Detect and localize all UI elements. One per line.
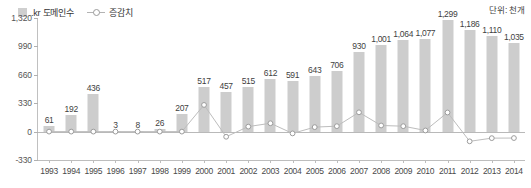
bar-value-label: 207 [175, 103, 188, 113]
x-axis-tick [359, 160, 360, 163]
x-axis-label: 2002 [239, 166, 257, 176]
bar-column: 1,110 [481, 18, 503, 160]
bar-column: 1,064 [392, 18, 414, 160]
x-axis-label: 1994 [62, 166, 80, 176]
x-axis-label: 1999 [173, 166, 191, 176]
bar [176, 114, 187, 132]
bar-value-label: 517 [197, 76, 210, 86]
bar [464, 30, 475, 132]
bar-value-label: 457 [219, 81, 232, 91]
x-axis-line [38, 160, 525, 161]
bar-value-label: 192 [65, 104, 78, 114]
x-axis-label: 1998 [151, 166, 169, 176]
x-axis-label: 2013 [483, 166, 501, 176]
x-axis-tick [138, 160, 139, 163]
domain-count-chart: 단위: 천개 .kr 도메인수 증감치 -33003306609901,320 … [0, 0, 531, 188]
bar-value-label: 61 [45, 115, 54, 125]
x-axis-tick [315, 160, 316, 163]
x-axis-label: 2010 [417, 166, 435, 176]
x-axis-label: 2003 [262, 166, 280, 176]
bar-column: 706 [326, 18, 348, 160]
bar [486, 36, 497, 132]
bar [199, 87, 210, 131]
bar-value-label: 612 [264, 68, 277, 78]
bar [66, 115, 77, 132]
bar-column: 26 [149, 18, 171, 160]
bar-column: 436 [82, 18, 104, 160]
unit-note: 단위: 천개 [489, 3, 525, 15]
bar-column: 3 [104, 18, 126, 160]
bar-value-label: 706 [330, 60, 343, 70]
bar-column: 591 [282, 18, 304, 160]
plot-area: -33003306609901,320 61192436382620751745… [38, 18, 525, 160]
bar [442, 20, 453, 132]
x-axis-tick [337, 160, 338, 163]
y-axis-label: 330 [18, 98, 32, 108]
bar-column: 643 [304, 18, 326, 160]
bar-column: 930 [348, 18, 370, 160]
x-axis-label: 2014 [505, 166, 523, 176]
bar-value-label: 1,299 [438, 9, 458, 19]
x-axis-tick [93, 160, 94, 163]
bar-column: 8 [127, 18, 149, 160]
x-axis-label: 1996 [107, 166, 125, 176]
bar-column: 1,077 [414, 18, 436, 160]
x-axis-tick [403, 160, 404, 163]
x-axis-label: 2001 [217, 166, 235, 176]
bar-value-label: 26 [155, 118, 164, 128]
bar [420, 39, 431, 132]
bar-value-label: 436 [87, 83, 100, 93]
bar-column: 61 [38, 18, 60, 160]
bar-value-label: 3 [113, 120, 117, 130]
x-axis-tick [248, 160, 249, 163]
bar-value-label: 515 [242, 76, 255, 86]
bar [287, 81, 298, 132]
bar-value-label: 930 [352, 41, 365, 51]
x-axis-tick [381, 160, 382, 163]
x-axis-tick [293, 160, 294, 163]
x-axis-label: 2009 [394, 166, 412, 176]
bar-column: 517 [193, 18, 215, 160]
bar-column: 1,035 [503, 18, 525, 160]
y-axis-label: 1,320 [11, 13, 32, 23]
x-axis-tick [514, 160, 515, 163]
x-axis: 1993199419951996199719981999200020012002… [38, 160, 525, 186]
bar [508, 43, 519, 132]
x-axis-label: 2007 [350, 166, 368, 176]
bar [88, 94, 99, 132]
x-axis-tick [204, 160, 205, 163]
bar [331, 71, 342, 132]
x-axis-label: 2011 [439, 166, 456, 176]
x-axis-label: 2006 [328, 166, 346, 176]
x-axis-tick [160, 160, 161, 163]
bar-column: 1,299 [436, 18, 458, 160]
x-axis-label: 2008 [372, 166, 390, 176]
x-axis-tick [226, 160, 227, 163]
bar-column: 515 [237, 18, 259, 160]
x-axis-tick [470, 160, 471, 163]
bar [221, 92, 232, 131]
bar-column: 207 [171, 18, 193, 160]
bar-value-label: 591 [286, 70, 299, 80]
bar-value-label: 1,064 [393, 29, 413, 39]
bar-value-label: 8 [135, 120, 139, 130]
x-axis-tick [448, 160, 449, 163]
x-axis-label: 2000 [195, 166, 213, 176]
x-axis-label: 2012 [461, 166, 479, 176]
bar [154, 129, 165, 131]
x-axis-label: 2004 [284, 166, 302, 176]
x-axis-tick [71, 160, 72, 163]
x-axis-label: 2005 [306, 166, 324, 176]
x-axis-tick [49, 160, 50, 163]
bar [132, 131, 143, 132]
bar-column: 192 [60, 18, 82, 160]
x-axis-tick [270, 160, 271, 163]
bar-value-label: 1,186 [460, 19, 480, 29]
bar-value-label: 1,110 [482, 25, 501, 35]
x-axis-label: 1993 [40, 166, 58, 176]
x-axis-label: 1995 [84, 166, 102, 176]
bar [398, 40, 409, 132]
bar-column: 1,186 [459, 18, 481, 160]
bar [243, 87, 254, 131]
bar-column: 457 [215, 18, 237, 160]
